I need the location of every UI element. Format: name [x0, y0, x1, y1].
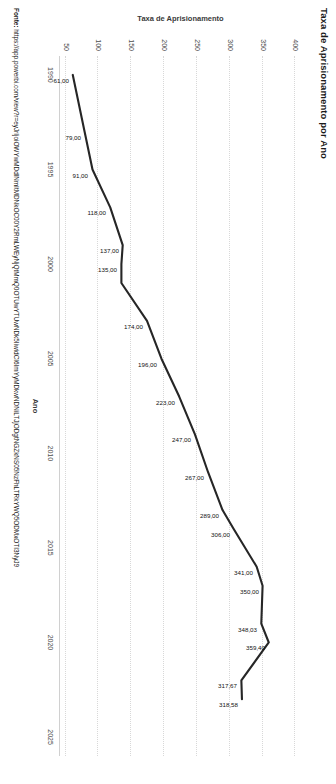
data-point-label: 317,67: [218, 682, 237, 689]
y-axis-tick: 150: [128, 39, 135, 51]
data-point-label: 196,00: [139, 361, 158, 368]
data-point-label: 348,03: [238, 626, 257, 633]
x-axis-tick: 2020: [47, 635, 54, 651]
data-point-label: 61,00: [53, 77, 68, 84]
y-axis-tick: 200: [161, 39, 168, 51]
x-axis-tick: 2010: [47, 446, 54, 462]
x-axis-label: Ano: [31, 56, 40, 756]
y-axis-tick: 300: [226, 39, 233, 51]
series-path: [73, 75, 269, 699]
data-point-label: 79,00: [65, 134, 80, 141]
data-point-label: 137,00: [100, 247, 119, 254]
series-line-taxa-de-aprisionamento: [59, 56, 302, 756]
chart-title: Taxa de Aprisionamento por Ano: [319, 0, 330, 784]
data-point-label: 118,00: [88, 209, 106, 216]
data-point-label: 91,00: [73, 172, 88, 179]
data-point-label: 359,40: [246, 644, 265, 651]
y-axis-tick: 250: [193, 39, 200, 51]
source-url: https://app.powerbi.com/view?r=eyJrIjoiO…: [13, 29, 20, 567]
data-point-label: 223,00: [156, 399, 175, 406]
source-note: Fonte: https://app.powerbi.com/view?r=ey…: [12, 8, 20, 778]
data-point-label: 289,00: [200, 512, 219, 519]
data-point-label: 350,00: [240, 588, 259, 595]
source-label: Fonte:: [13, 8, 20, 28]
x-axis-tick: 2015: [47, 540, 54, 556]
data-point-label: 247,00: [172, 436, 191, 443]
x-axis-tick: 2005: [47, 351, 54, 367]
data-point-label: 341,00: [234, 569, 253, 576]
x-axis-tick: 2000: [47, 256, 54, 272]
data-point-label: 267,00: [185, 474, 204, 481]
data-point-label: 135,00: [98, 266, 117, 273]
data-point-label: 318,58: [219, 701, 238, 708]
y-axis-tick: 100: [95, 39, 102, 51]
data-point-label: 174,00: [124, 323, 143, 330]
y-axis-tick: 50: [62, 43, 69, 51]
y-axis-tick: 400: [292, 39, 299, 51]
chart-container: Taxa de Aprisionamento por Ano Taxa de A…: [0, 0, 336, 784]
data-point-label: 306,00: [211, 531, 230, 538]
x-axis-tick: 1995: [47, 162, 54, 178]
y-axis-label: Taxa de Aprisionamento: [59, 14, 302, 23]
x-axis-tick: 2025: [47, 729, 54, 745]
rotated-chart-stage: Taxa de Aprisionamento por Ano Taxa de A…: [0, 0, 336, 784]
plot-area: 5010015020025030035040019901995200020052…: [59, 56, 302, 756]
y-axis-tick: 350: [259, 39, 266, 51]
